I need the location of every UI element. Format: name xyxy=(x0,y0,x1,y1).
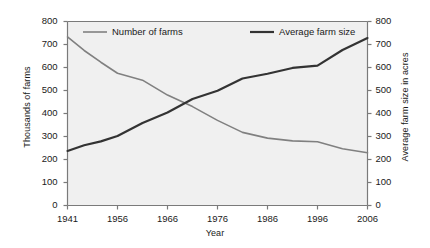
chart-container: Thousands of farms Average farm size in … xyxy=(0,0,430,248)
y-axis-right-tick-label: 200 xyxy=(376,153,410,164)
y-axis-right-tick-label: 300 xyxy=(376,130,410,141)
y-axis-left-tick-label: 300 xyxy=(24,130,58,141)
y-axis-left-tick-label: 100 xyxy=(24,176,58,187)
y-axis-right-tick-label: 400 xyxy=(376,107,410,118)
y-axis-left-tick-label: 0 xyxy=(24,199,58,210)
y-axis-left-tick-label: 500 xyxy=(24,84,58,95)
y-axis-left-tick-label: 800 xyxy=(24,15,58,26)
x-axis-tick-label: 1966 xyxy=(148,213,188,224)
x-axis-tick-label: 1941 xyxy=(48,213,88,224)
y-axis-left-tick-label: 600 xyxy=(24,61,58,72)
chart-plot-area xyxy=(0,0,430,248)
plot-background xyxy=(68,22,368,206)
legend-label-1: Average farm size xyxy=(279,26,355,37)
y-axis-left-tick-label: 200 xyxy=(24,153,58,164)
y-axis-right-tick-label: 600 xyxy=(376,61,410,72)
x-axis-title: Year xyxy=(0,228,430,238)
y-axis-right-tick-label: 500 xyxy=(376,84,410,95)
x-axis-tick-label: 1976 xyxy=(198,213,238,224)
y-axis-right-tick-label: 700 xyxy=(376,38,410,49)
legend-label-0: Number of farms xyxy=(112,26,183,37)
x-axis-tick-label: 2006 xyxy=(348,213,388,224)
y-axis-right-tick-label: 100 xyxy=(376,176,410,187)
x-axis-tick-label: 1956 xyxy=(98,213,138,224)
x-axis-tick-label: 1986 xyxy=(248,213,288,224)
y-axis-left-tick-label: 700 xyxy=(24,38,58,49)
x-axis-tick-label: 1996 xyxy=(298,213,338,224)
y-axis-right-tick-label: 800 xyxy=(376,15,410,26)
y-axis-left-tick-label: 400 xyxy=(24,107,58,118)
y-axis-right-tick-label: 0 xyxy=(376,199,410,210)
